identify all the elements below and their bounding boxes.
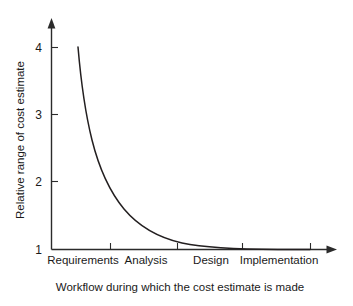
x-axis-caption: Workflow during which the cost estimate …: [56, 281, 304, 293]
x-category-label-requirements: Requirements: [47, 254, 119, 266]
y-axis-arrow-icon: [48, 18, 56, 29]
cost-estimate-curve: [78, 47, 310, 250]
x-category-label-analysis: Analysis: [125, 254, 168, 266]
x-category-label-implementation: Implementation: [240, 254, 319, 266]
x-axis-arrow-icon: [327, 246, 338, 254]
y-tick-label-3: 3: [35, 108, 42, 122]
cost-estimate-chart-figure: 4 3 2 1 Requirements Analysis Design Imp…: [0, 0, 353, 306]
y-tick-label-4: 4: [35, 41, 42, 55]
y-tick-label-2: 2: [35, 175, 42, 189]
chart-plot-area: 4 3 2 1 Requirements Analysis Design Imp…: [0, 0, 353, 306]
y-tick-label-1: 1: [35, 243, 42, 257]
y-axis-title: Relative range of cost estimate: [14, 61, 26, 219]
x-category-label-design: Design: [193, 254, 229, 266]
